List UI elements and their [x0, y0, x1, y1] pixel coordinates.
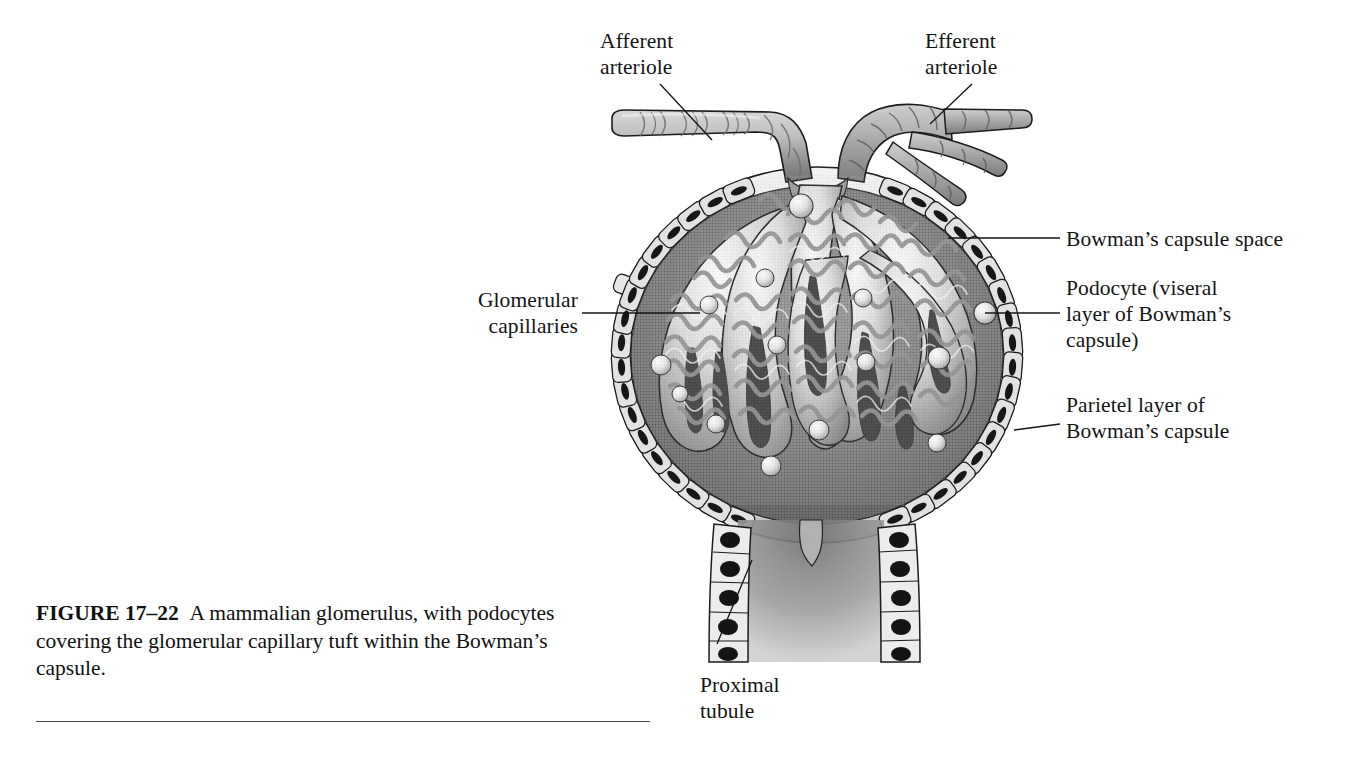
- efferent-branch-1: [944, 109, 1032, 134]
- label-parietal-layer: Parietel layer of Bowman’s capsule: [1066, 392, 1229, 444]
- leader-parietal-layer: [1014, 424, 1060, 430]
- label-efferent-arteriole: Efferent arteriole: [925, 28, 998, 80]
- figure-caption: FIGURE 17–22 A mammalian glomerulus, wit…: [36, 600, 576, 683]
- figure-number: FIGURE 17–22: [36, 601, 179, 625]
- label-afferent-arteriole: Afferent arteriole: [600, 28, 673, 80]
- label-glomerular-capillaries: Glomerular capillaries: [358, 287, 578, 339]
- proximal-tubule: [709, 520, 920, 662]
- caption-rule: [36, 721, 650, 722]
- label-podocyte: Podocyte (viseral layer of Bowman’s caps…: [1066, 275, 1231, 353]
- label-proximal-tubule: Proximal tubule: [700, 672, 780, 724]
- label-bowmans-capsule-space: Bowman’s capsule space: [1066, 226, 1283, 252]
- figure-root: Afferent arteriole Efferent arteriole Gl…: [0, 0, 1360, 766]
